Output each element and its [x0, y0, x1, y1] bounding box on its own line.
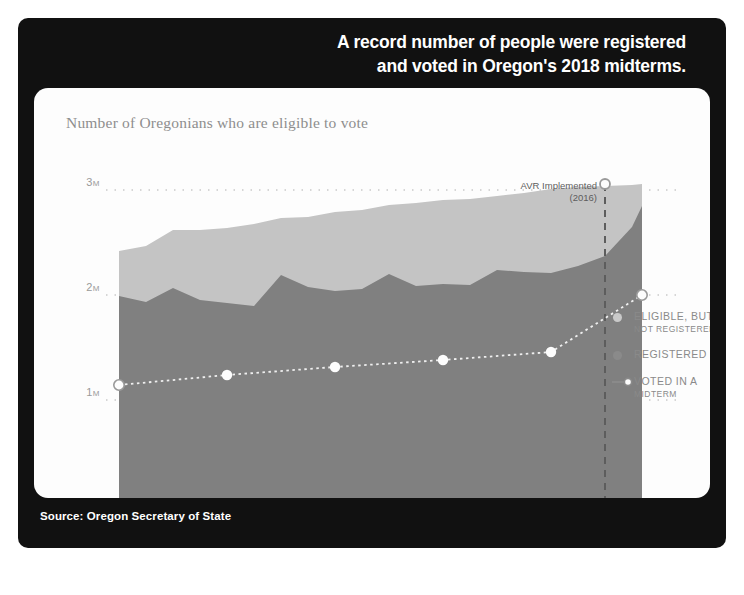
source-note: Source: Oregon Secretary of State — [40, 510, 231, 522]
y-axis-labels: 3M 2M 1M — [86, 176, 100, 398]
avr-annotation-line1: AVR Implemented — [521, 180, 597, 191]
legend-marker-dot-dark — [612, 349, 634, 361]
avr-annotation-line2: (2016) — [570, 192, 597, 203]
legend-label-voted-line1: Voted in a — [634, 375, 697, 387]
data-point-total-2016 — [600, 179, 610, 189]
chart-card: Number of Oregonians who are eligible to… — [34, 88, 710, 498]
area-chart-svg: 3M 2M 1M AVR Implemented (2016) — [34, 88, 710, 498]
legend-item-eligible-not-registered: Eligible, but not registered — [612, 310, 710, 335]
data-point-voted-2018 — [637, 290, 647, 300]
data-point-voted-1998 — [114, 380, 124, 390]
legend-label-eligible-not-registered: Eligible, but not registered — [634, 310, 710, 335]
legend-label-voted-in-midterm: Voted in a midterm — [634, 375, 697, 400]
page-title: A record number of people were registere… — [58, 30, 686, 78]
line-dot-icon — [612, 377, 634, 387]
legend-label-eligible-line1: Eligible, but — [634, 310, 710, 322]
legend-label-registered: Registered — [634, 348, 707, 362]
poster-container: A record number of people were registere… — [18, 18, 726, 548]
page-title-line1: A record number of people were registere… — [58, 30, 686, 54]
legend-marker-dot-light — [612, 311, 634, 323]
y-tick-2m: 2M — [86, 281, 100, 293]
page-title-line2: and voted in Oregon's 2018 midterms. — [58, 54, 686, 78]
legend-label-registered-line1: Registered — [634, 348, 707, 360]
data-point-voted-2010 — [438, 355, 448, 365]
data-point-voted-2014 — [546, 347, 556, 357]
legend-item-registered: Registered — [612, 348, 710, 362]
data-point-voted-2006 — [330, 362, 340, 372]
chart-plot-area: 3M 2M 1M AVR Implemented (2016) — [34, 88, 710, 498]
y-tick-1m: 1M — [86, 386, 100, 398]
legend-marker-line-dot — [612, 376, 634, 388]
legend-item-voted-in-midterm: Voted in a midterm — [612, 375, 710, 400]
legend-label-voted-line2: midterm — [634, 389, 677, 399]
legend-label-eligible-line2: not registered — [634, 324, 710, 334]
y-tick-3m: 3M — [86, 176, 100, 188]
chart-legend: Eligible, but not registered Registered — [612, 310, 710, 413]
data-point-voted-2002 — [222, 370, 232, 380]
